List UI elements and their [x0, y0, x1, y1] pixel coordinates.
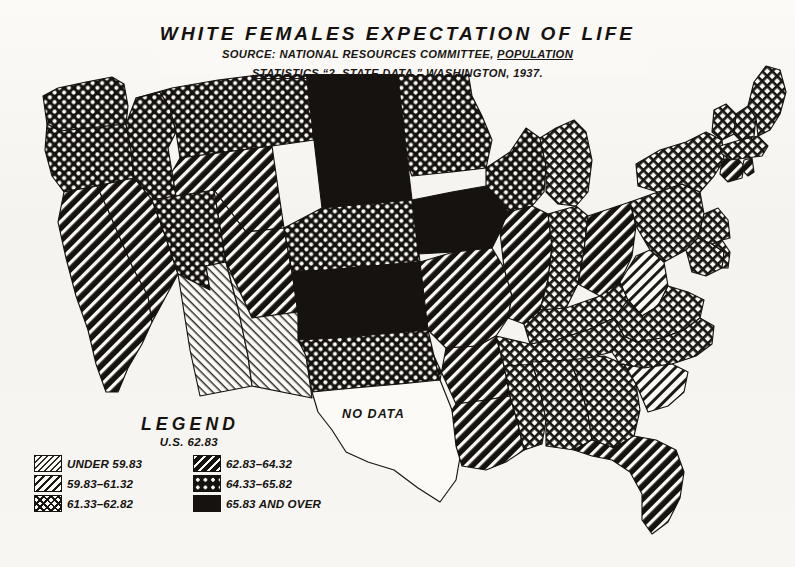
state-michigan[interactable] — [540, 120, 592, 206]
no-data-label: NO DATA — [342, 407, 405, 421]
legend-swatch-5983-6132 — [34, 475, 62, 492]
legend-item-6583-over[interactable]: 65.83 AND OVER — [193, 495, 324, 512]
state-texas[interactable] — [312, 380, 462, 502]
legend-label-5983-6132: 59.83–61.32 — [67, 478, 133, 490]
state-missouri[interactable] — [420, 248, 512, 348]
legend-item-6133-6282[interactable]: 61.33–62.82 — [34, 495, 189, 512]
legend-item-6433-6582[interactable]: 64.33–65.82 — [193, 475, 324, 492]
legend-item-6283-6432[interactable]: 62.83–64.32 — [193, 455, 324, 472]
legend-heading: LEGEND — [34, 416, 324, 434]
legend-label-under-5983: UNDER 59.83 — [67, 458, 142, 470]
legend-swatch-6133-6282 — [34, 495, 62, 512]
legend-label-6433-6582: 64.33–65.82 — [226, 478, 292, 490]
legend-label-6283-6432: 62.83–64.32 — [226, 458, 292, 470]
state-massachusetts[interactable] — [720, 136, 768, 160]
legend-swatch-6283-6432 — [193, 455, 221, 472]
state-kansas[interactable] — [292, 262, 428, 340]
legend-swatch-6583-over — [193, 495, 221, 512]
legend-us-average: U.S. 62.83 — [34, 437, 324, 449]
scanned-page: NO DATA — [0, 0, 795, 567]
title-background-mask — [150, 18, 650, 74]
legend-item-5983-6132[interactable]: 59.83–61.32 — [34, 475, 189, 492]
legend-items: UNDER 59.83 62.83–64.32 59.83–61.32 64.3… — [34, 455, 324, 512]
state-minnesota[interactable] — [396, 58, 492, 176]
legend-swatch-under-5983 — [34, 455, 62, 472]
state-washington[interactable] — [43, 77, 128, 131]
state-rhode-island[interactable] — [742, 158, 754, 176]
state-florida[interactable] — [574, 436, 684, 534]
legend-item-under-5983[interactable]: UNDER 59.83 — [34, 455, 189, 472]
state-nebraska[interactable] — [284, 200, 420, 272]
legend-label-6583-over: 65.83 AND OVER — [226, 498, 321, 510]
legend: LEGEND U.S. 62.83 UNDER 59.83 62.83–64.3… — [34, 416, 324, 512]
state-south-dakota[interactable] — [314, 130, 412, 208]
state-new-york[interactable] — [636, 132, 724, 192]
state-iowa[interactable] — [412, 186, 508, 254]
legend-label-6133-6282: 61.33–62.82 — [67, 498, 133, 510]
state-vermont[interactable] — [712, 104, 736, 140]
legend-swatch-6433-6582 — [193, 475, 221, 492]
